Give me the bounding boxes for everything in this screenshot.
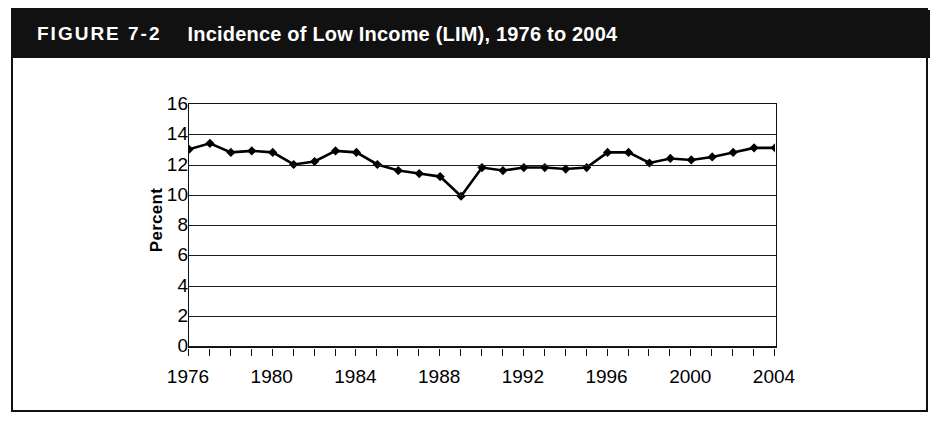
x-axis-tick-label: 1988: [404, 367, 474, 386]
x-axis-tick-label: 1992: [488, 367, 558, 386]
figure-number-label: FIGURE 7-2: [37, 23, 162, 45]
x-axis-tick-label: 1980: [237, 367, 307, 386]
x-axis-tick-labels: 19761980198419881992199620002004: [13, 58, 930, 410]
chart-area: Percent 0246810121416 197619801984198819…: [13, 58, 930, 410]
x-axis-tick-label: 1984: [320, 367, 390, 386]
x-axis-tick-label: 2004: [739, 367, 809, 386]
x-axis-tick-label: 2000: [655, 367, 725, 386]
figure-frame: FIGURE 7-2 Incidence of Low Income (LIM)…: [11, 8, 928, 412]
figure-title-text: Incidence of Low Income (LIM), 1976 to 2…: [188, 23, 618, 46]
x-axis-tick-label: 1976: [153, 367, 223, 386]
x-axis-tick-label: 1996: [572, 367, 642, 386]
figure-title-bar: FIGURE 7-2 Incidence of Low Income (LIM)…: [13, 10, 930, 58]
